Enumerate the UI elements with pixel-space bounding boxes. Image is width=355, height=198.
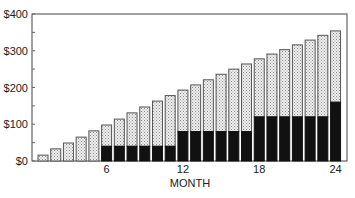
bar-segment-light [203,80,213,132]
bar-segment-dark [203,132,213,161]
bar-month-12 [178,90,188,161]
y-tick-label: $0 [16,155,28,167]
bar-segment-dark [127,146,137,161]
bar-month-20 [280,50,290,161]
x-axis: 6121824 [104,163,342,175]
bar-month-10 [152,101,162,161]
bar-month-1 [38,155,48,161]
bar-segment-light [191,85,201,132]
y-axis: $0$100$200$300$400 [4,8,35,167]
bar-segment-light [38,155,48,161]
bar-segment-light [331,31,341,102]
y-tick-label: $400 [4,8,28,20]
y-tick-label: $200 [4,82,28,94]
bar-segment-light [216,74,226,131]
bar-segment-dark [152,146,162,161]
bar-month-15 [216,74,226,161]
bar-month-6 [102,125,112,161]
bar-month-18 [254,59,264,161]
bar-segment-light [140,107,150,146]
x-axis-title: MONTH [170,177,210,189]
bar-segment-light [102,125,112,146]
bar-segment-dark [267,117,277,161]
bar-month-3 [63,143,73,161]
bar-month-8 [127,113,137,161]
bar-segment-dark [305,117,315,161]
bar-segment-dark [280,117,290,161]
bar-segment-light [242,64,252,132]
bar-segment-light [89,131,99,161]
bar-segment-dark [229,132,239,161]
bar-segment-dark [331,102,341,161]
bar-segment-dark [191,132,201,161]
stacked-bar-chart: $0$100$200$300$400 6121824 MONTH [0,0,355,198]
bar-month-23 [318,35,328,161]
bar-segment-light [280,50,290,117]
bar-segment-light [318,35,328,117]
bar-month-2 [51,149,61,161]
bar-month-7 [114,119,124,161]
bar-segment-light [127,113,137,146]
bar-segment-light [165,96,175,147]
bar-segment-light [114,119,124,146]
bar-month-21 [292,45,302,161]
y-tick-label: $100 [4,118,28,130]
bar-month-11 [165,96,175,161]
x-tick-label: 24 [329,163,341,175]
bar-month-24 [331,31,341,161]
bar-segment-light [152,101,162,146]
bars [38,31,341,161]
bar-month-5 [89,131,99,161]
x-tick-label: 12 [177,163,189,175]
bar-month-17 [242,64,252,161]
bar-month-22 [305,40,315,161]
bar-segment-light [51,149,61,161]
bar-month-19 [267,54,277,161]
y-tick-label: $300 [4,45,28,57]
bar-segment-dark [318,117,328,161]
x-tick-label: 6 [104,163,110,175]
bar-segment-dark [242,132,252,161]
bar-segment-dark [254,117,264,161]
bar-month-13 [191,85,201,161]
bar-month-4 [76,137,86,161]
bar-segment-dark [165,146,175,161]
x-tick-label: 18 [253,163,265,175]
bar-segment-dark [178,132,188,161]
bar-segment-dark [216,132,226,161]
bar-segment-light [229,69,239,131]
bar-segment-dark [140,146,150,161]
bar-segment-dark [114,146,124,161]
bar-segment-light [305,40,315,117]
bar-month-9 [140,107,150,161]
bar-segment-dark [292,117,302,161]
bar-month-16 [229,69,239,161]
bar-month-14 [203,80,213,161]
bar-segment-light [63,143,73,161]
bar-segment-dark [102,146,112,161]
bar-segment-light [254,59,264,117]
bar-segment-light [292,45,302,117]
bar-segment-light [178,90,188,132]
bar-segment-light [267,54,277,117]
bar-segment-light [76,137,86,161]
